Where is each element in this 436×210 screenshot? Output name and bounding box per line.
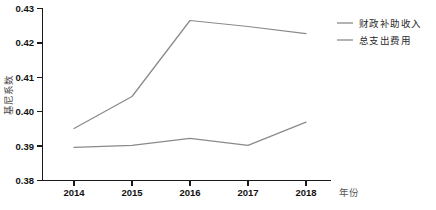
legend: 财政补助收入 总支出费用 bbox=[337, 18, 421, 46]
y-tick-label-5: 0.38 bbox=[16, 175, 35, 186]
x-axis-title: 年份 bbox=[339, 187, 359, 198]
y-tick-label-0: 0.43 bbox=[16, 3, 35, 14]
x-tick-label-2018: 2018 bbox=[295, 187, 316, 198]
x-tick-label-2017: 2017 bbox=[237, 187, 258, 198]
legend-item-total-expenditure[interactable]: 总支出费用 bbox=[337, 35, 411, 46]
y-tick-label-3: 0.40 bbox=[16, 106, 35, 117]
x-tick-label-2016: 2016 bbox=[179, 187, 200, 198]
y-axis-ticks bbox=[37, 9, 43, 181]
x-axis-ticks bbox=[74, 181, 306, 187]
chart-canvas: 0.43 0.42 0.41 0.40 0.39 0.38 2014 2015 … bbox=[0, 0, 436, 210]
series-line-fiscal-subsidy-income bbox=[74, 21, 306, 129]
y-tick-label-4: 0.39 bbox=[16, 141, 35, 152]
x-tick-label-2014: 2014 bbox=[63, 187, 85, 198]
line-chart: 0.43 0.42 0.41 0.40 0.39 0.38 2014 2015 … bbox=[0, 0, 436, 210]
y-axis-title: 基尼系数 bbox=[3, 75, 14, 115]
legend-label-fiscal-subsidy-income: 财政补助收入 bbox=[359, 18, 421, 29]
series-line-total-expenditure bbox=[74, 122, 306, 147]
legend-item-fiscal-subsidy-income[interactable]: 财政补助收入 bbox=[337, 18, 421, 29]
y-tick-label-1: 0.42 bbox=[16, 37, 35, 48]
legend-label-total-expenditure: 总支出费用 bbox=[359, 35, 411, 46]
y-tick-label-2: 0.41 bbox=[16, 72, 35, 83]
x-tick-label-2015: 2015 bbox=[121, 187, 143, 198]
